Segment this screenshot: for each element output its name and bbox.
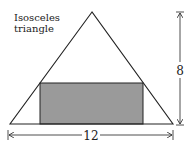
- title-line-1: Isosceles: [14, 12, 60, 23]
- height-label: 8: [176, 64, 184, 78]
- base-label: 12: [83, 129, 98, 143]
- title-line-2: triangle: [14, 23, 54, 34]
- triangle-diagram: 8 12 Isosceles triangle: [0, 0, 191, 151]
- inscribed-rectangle: [40, 83, 143, 124]
